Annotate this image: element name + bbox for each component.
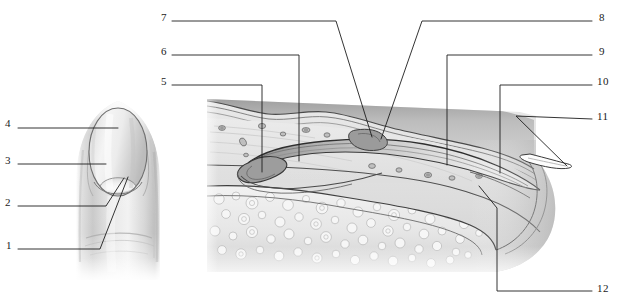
- label-3: 3: [5, 155, 11, 166]
- label-8: 8: [599, 12, 605, 23]
- label-6: 6: [161, 46, 167, 57]
- label-11: 11: [597, 111, 609, 122]
- label-10: 10: [597, 76, 609, 87]
- label-4: 4: [5, 118, 11, 129]
- label-1: 1: [6, 240, 12, 251]
- label-7: 7: [161, 12, 167, 23]
- label-2: 2: [5, 197, 11, 208]
- anatomy-figure: 4 3 2 1 7 6 5 8 9 10 11 12: [0, 0, 618, 305]
- figure-artwork: [0, 0, 618, 305]
- label-12: 12: [597, 283, 609, 294]
- finger-dorsal-illustration: [70, 101, 170, 286]
- label-9: 9: [599, 46, 605, 57]
- finger-section-illustration: [200, 95, 572, 280]
- label-5: 5: [161, 76, 167, 87]
